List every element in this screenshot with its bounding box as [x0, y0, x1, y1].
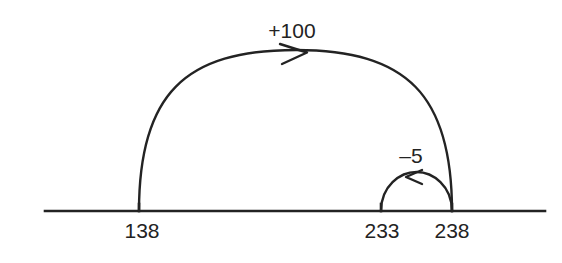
jump-arc-minus-5	[381, 172, 452, 211]
jump-label-minus-5: –5	[399, 144, 422, 167]
jump-label-plus-100: +100	[268, 19, 315, 42]
tick-label-238: 238	[434, 219, 469, 242]
arrowhead-right-icon	[280, 44, 307, 64]
tick-label-233: 233	[364, 219, 399, 242]
number-line-canvas: +100 –5 138 233 238	[0, 0, 562, 263]
tick-label-138: 138	[124, 219, 159, 242]
jump-arc-plus-100	[139, 50, 452, 211]
number-line-diagram: +100 –5 138 233 238	[0, 0, 562, 263]
